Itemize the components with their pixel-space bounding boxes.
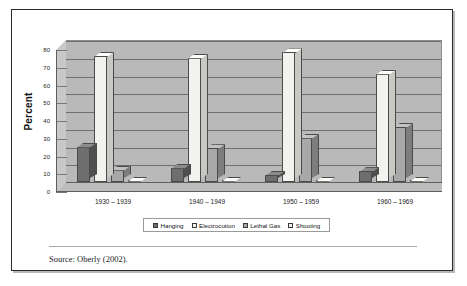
legend-item[interactable]: Shooting — [288, 222, 320, 229]
x-tick-label: 1930 – 1939 — [66, 198, 160, 205]
bar-face — [282, 52, 295, 182]
bar — [410, 181, 423, 183]
chart-legend: HangingElectrocutionLethal GasShooting — [143, 218, 330, 232]
bar-side — [389, 70, 396, 178]
bar — [222, 181, 235, 183]
x-tick-label: 1950 – 1959 — [254, 198, 348, 205]
legend-item[interactable]: Lethal Gas — [243, 222, 280, 229]
y-axis-tick — [56, 103, 67, 104]
y-tick-label: 20 — [28, 154, 50, 160]
legend-swatch-icon — [153, 223, 158, 228]
y-axis-tick — [56, 139, 67, 140]
legend-label: Shooting — [296, 222, 320, 229]
bar-face — [376, 74, 389, 182]
y-axis-tick — [56, 68, 67, 69]
y-tick-label: 50 — [28, 100, 50, 106]
y-tick-label: 10 — [28, 171, 50, 177]
bar — [265, 175, 278, 182]
bar — [128, 181, 141, 183]
bar — [77, 147, 90, 183]
figure-frame: Percent 80706050403020100 1930 – 1939194… — [11, 9, 453, 271]
bar-face — [171, 168, 184, 182]
source-note: Source: Oberly (2002). — [49, 254, 128, 264]
source-divider — [49, 246, 417, 247]
legend-swatch-icon — [243, 223, 248, 228]
legend-label: Hanging — [161, 222, 184, 229]
bar-side — [406, 123, 413, 178]
y-tick-label: 40 — [28, 118, 50, 124]
gridline — [66, 41, 441, 42]
bar-side — [201, 54, 208, 178]
bar — [316, 181, 329, 183]
legend-swatch-icon — [288, 223, 293, 228]
y-tick-label: 0 — [28, 189, 50, 195]
bar — [376, 74, 389, 182]
bar — [171, 168, 184, 182]
y-axis-line — [56, 50, 57, 192]
y-axis-tick — [56, 50, 67, 51]
x-tick-label: 1960 – 1969 — [348, 198, 442, 205]
y-tick-label: 70 — [28, 65, 50, 71]
bar-face — [77, 147, 90, 183]
bar-side — [312, 134, 319, 178]
legend-label: Electrocution — [199, 222, 235, 229]
legend-swatch-icon — [192, 223, 197, 228]
bar — [359, 171, 372, 182]
x-axis-line — [66, 182, 442, 183]
plot-side-wall — [56, 40, 66, 192]
y-axis-tick — [56, 174, 67, 175]
y-tick-label: 60 — [28, 83, 50, 89]
y-axis-tick — [56, 157, 67, 158]
bar-face — [359, 171, 372, 182]
y-axis-tick — [56, 192, 67, 193]
plot-floor-front-edge — [56, 191, 442, 192]
gridline — [66, 59, 441, 60]
y-tick-label: 30 — [28, 136, 50, 142]
legend-item[interactable]: Hanging — [153, 222, 184, 229]
x-tick-label: 1940 – 1949 — [160, 198, 254, 205]
bar-face — [265, 175, 278, 182]
bar-side — [295, 48, 302, 178]
y-tick-label: 80 — [28, 47, 50, 53]
bar-side — [107, 52, 114, 178]
bar — [282, 52, 295, 182]
chart-area: Percent 80706050403020100 1930 – 1939194… — [12, 10, 454, 228]
legend-label: Lethal Gas — [250, 222, 280, 229]
bar-side — [218, 144, 225, 178]
plot-area — [56, 40, 442, 192]
y-axis-tick — [56, 86, 67, 87]
y-axis-tick — [56, 121, 67, 122]
legend-item[interactable]: Electrocution — [192, 222, 235, 229]
bar-side — [90, 143, 97, 179]
